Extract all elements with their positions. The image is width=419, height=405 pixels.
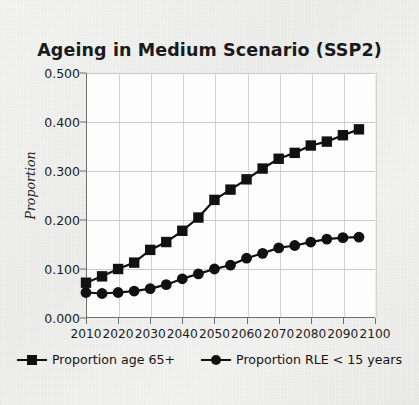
x-tick-mark — [343, 318, 344, 324]
legend-square-marker-icon — [17, 354, 47, 366]
data-point-square — [209, 195, 219, 205]
x-tick-label: 2080 — [288, 327, 334, 341]
x-tick-mark — [118, 318, 119, 324]
x-tick-mark — [86, 318, 87, 324]
chart-figure: Ageing in Medium Scenario (SSP2) Proport… — [0, 0, 419, 405]
data-point-circle — [337, 232, 348, 243]
legend-label: Proportion age 65+ — [52, 352, 175, 367]
data-point-circle — [289, 240, 300, 251]
data-point-circle — [177, 273, 188, 284]
data-point-square — [241, 174, 251, 184]
data-point-square — [306, 140, 316, 150]
x-tick-mark — [247, 318, 248, 324]
x-tick-mark — [311, 318, 312, 324]
x-tick-label: 2050 — [191, 327, 237, 341]
data-point-square — [193, 212, 203, 222]
x-tick-mark — [279, 318, 280, 324]
legend-item[interactable]: Proportion RLE < 15 years — [201, 352, 402, 367]
legend-label: Proportion RLE < 15 years — [236, 352, 402, 367]
data-point-circle — [209, 264, 220, 275]
data-point-square — [225, 184, 235, 194]
plot-wrap — [86, 73, 375, 318]
x-tick-mark — [375, 318, 376, 324]
x-tick-mark — [182, 318, 183, 324]
data-point-circle — [161, 279, 172, 290]
data-point-circle — [225, 260, 236, 271]
data-point-circle — [193, 269, 204, 280]
series-line — [86, 129, 359, 282]
data-point-circle — [257, 248, 268, 259]
data-point-square — [113, 264, 123, 274]
data-point-square — [81, 278, 91, 288]
data-point-square — [257, 163, 267, 173]
x-tick-label: 2070 — [256, 327, 302, 341]
data-point-circle — [113, 287, 124, 298]
data-point-square — [161, 237, 171, 247]
data-point-circle — [145, 283, 156, 294]
x-tick-label: 2100 — [352, 327, 398, 341]
data-point-square — [145, 245, 155, 255]
data-point-square — [290, 148, 300, 158]
y-tick-label: 0.500 — [24, 66, 80, 81]
data-point-circle — [321, 234, 332, 245]
x-tick-label: 2040 — [159, 327, 205, 341]
data-point-square — [97, 271, 107, 281]
y-axis-title: Proportion — [23, 126, 38, 246]
series-layer — [86, 73, 375, 318]
data-point-circle — [241, 253, 252, 264]
chart-title: Ageing in Medium Scenario (SSP2) — [0, 40, 419, 60]
legend-item[interactable]: Proportion age 65+ — [17, 352, 175, 367]
x-tick-mark — [214, 318, 215, 324]
data-point-circle — [354, 232, 365, 243]
data-point-square — [338, 130, 348, 140]
data-point-square — [354, 124, 364, 134]
data-point-square — [273, 154, 283, 164]
gridline-vertical — [376, 73, 377, 317]
x-tick-label: 2060 — [224, 327, 270, 341]
y-tick-label: 0.100 — [24, 262, 80, 277]
legend-circle-marker-icon — [201, 354, 231, 366]
data-point-circle — [305, 237, 316, 248]
data-point-circle — [81, 287, 92, 298]
x-tick-label: 2090 — [320, 327, 366, 341]
data-point-circle — [129, 286, 140, 297]
data-point-circle — [97, 288, 108, 299]
data-point-square — [177, 226, 187, 236]
data-point-square — [322, 136, 332, 146]
data-point-square — [129, 257, 139, 267]
chart-legend: Proportion age 65+Proportion RLE < 15 ye… — [0, 352, 419, 367]
y-tick-label: 0.000 — [24, 311, 80, 326]
x-tick-label: 2020 — [95, 327, 141, 341]
x-tick-mark — [150, 318, 151, 324]
x-tick-label: 2010 — [63, 327, 109, 341]
x-tick-label: 2030 — [127, 327, 173, 341]
data-point-circle — [273, 243, 284, 254]
